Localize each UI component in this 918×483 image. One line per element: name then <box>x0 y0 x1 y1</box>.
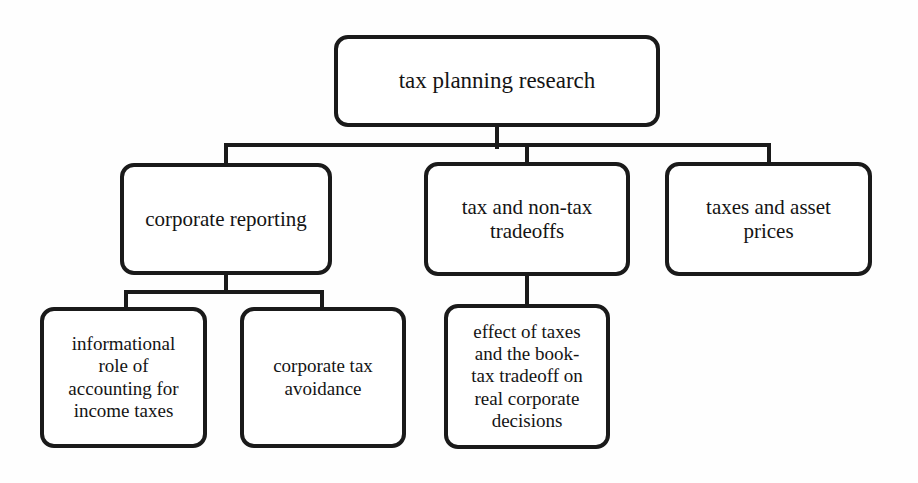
node-label: taxes and asset prices <box>706 195 831 244</box>
node-label: tax planning research <box>399 68 596 95</box>
node-label: informational role of accounting for inc… <box>68 333 178 421</box>
node-label: corporate tax avoidance <box>273 355 373 399</box>
node-corporate-tax-avoidance: corporate tax avoidance <box>240 307 406 448</box>
node-tax-and-non-tax-tradeoffs: tax and non-tax tradeoffs <box>424 162 630 276</box>
connector-level2-bus <box>124 290 324 294</box>
connector-tradeoffs-to-real-decisions <box>525 272 529 308</box>
node-effect-of-taxes-on-real-corporate-decisions: effect of taxes and the book- tax tradeo… <box>444 304 610 449</box>
tax-planning-research-diagram: tax planning research corporate reportin… <box>0 0 918 483</box>
node-label: effect of taxes and the book- tax tradeo… <box>471 321 583 431</box>
node-label: corporate reporting <box>145 207 307 231</box>
node-tax-planning-research: tax planning research <box>334 35 660 127</box>
connector-level1-bus <box>224 143 771 147</box>
node-informational-role-of-accounting-for-income-taxes: informational role of accounting for inc… <box>40 307 207 448</box>
node-taxes-and-asset-prices: taxes and asset prices <box>665 162 872 276</box>
node-corporate-reporting: corporate reporting <box>120 163 332 275</box>
node-label: tax and non-tax tradeoffs <box>462 195 593 244</box>
